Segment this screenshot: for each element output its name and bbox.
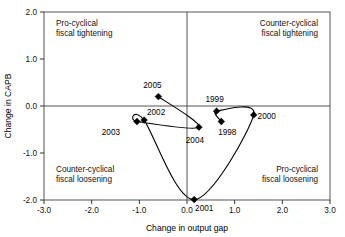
data-point-label-2005: 2005 [143,81,162,90]
x-tick-label: 3.0 [324,206,336,215]
x-tick-label: -1.0 [132,206,147,215]
data-point-label-2000: 2000 [258,112,277,121]
quadrant-label-line: fiscal tightening [262,29,319,38]
chart-container: -3.0-2.0-1.00.01.02.03.0 2.01.00.0-1.0-2… [0,0,345,237]
quadrant-label-line: fiscal loosening [262,175,318,184]
x-tick-label: -2.0 [85,206,100,215]
data-point-label-1998: 1998 [218,128,237,137]
quadrant-label-line: fiscal loosening [56,175,112,184]
quadrant-label-line: Pro-cyclical [276,165,318,174]
y-tick-label: -2.0 [23,196,38,205]
y-axis-title: Change in CAPB [3,73,13,138]
quadrant-label-line: Counter-cyclical [260,19,318,28]
quadrant-label-line: Pro-cyclical [56,19,98,28]
data-point-label-1999: 1999 [205,95,224,104]
y-tick-label: 2.0 [26,8,38,17]
quadrant-label-line: Counter-cyclical [56,165,114,174]
data-point-label-2003: 2003 [102,128,121,137]
x-tick-label: 0.0 [181,206,193,215]
y-tick-label: 0.0 [26,102,38,111]
fiscal-stance-scatter-chart: -3.0-2.0-1.00.01.02.03.0 2.01.00.0-1.0-2… [0,0,345,237]
x-tick-label: 1.0 [229,206,241,215]
data-point-label-2002: 2002 [147,108,166,117]
x-axis-title: Change in output gap [146,223,228,233]
quadrant-label-line: fiscal tightening [56,29,113,38]
x-tick-label: -3.0 [37,206,52,215]
quadrant-label-top-right: Counter-cyclicalfiscal tightening [260,19,319,38]
data-point-label-2001: 2001 [195,204,214,213]
quadrant-label-bottom-left: Counter-cyclicalfiscal loosening [56,165,114,184]
y-tick-label: 1.0 [26,55,38,64]
x-tick-label: 2.0 [277,206,289,215]
y-tick-label: -1.0 [23,149,38,158]
data-point-label-2004: 2004 [186,136,205,145]
